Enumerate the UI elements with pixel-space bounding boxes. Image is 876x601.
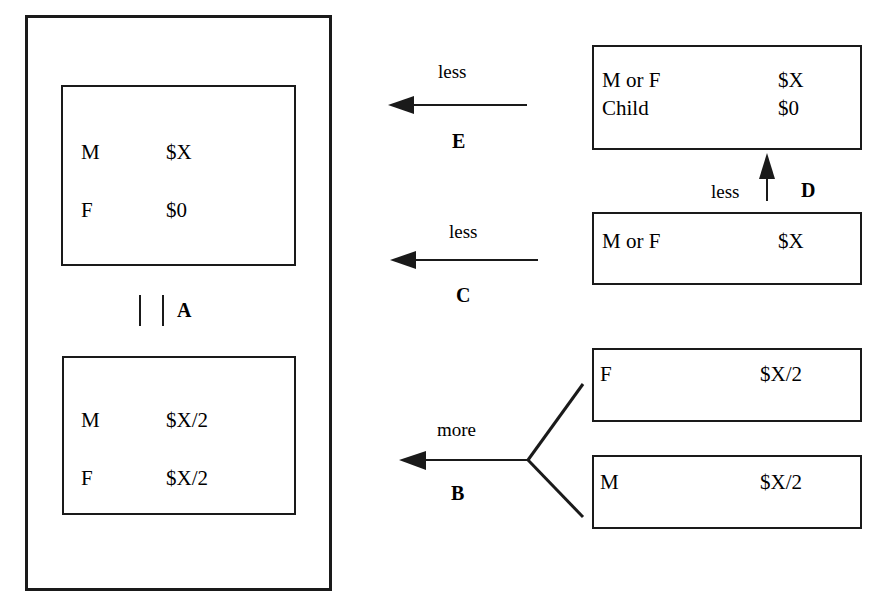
arrow-e-glyph: [388, 96, 527, 114]
external-box-e-row-1-value: $0: [778, 96, 799, 121]
arrow-d-qualifier: less: [711, 182, 740, 201]
external-box-b-upper-label: F: [600, 362, 612, 387]
state-box-bottom: [62, 356, 296, 515]
external-box-e-row-0-value: $X: [778, 68, 804, 93]
arrow-d-tag: D: [801, 180, 815, 200]
internal-link-tag-a: A: [177, 300, 191, 320]
external-box-b-upper: [592, 348, 862, 422]
state-bottom-row-1-value: $X/2: [166, 468, 208, 489]
arrow-e-tag: E: [452, 131, 465, 151]
state-top-row-0-value: $X: [166, 142, 192, 163]
external-box-c-row-0-value: $X: [778, 229, 804, 254]
external-box-e-row-1-label: Child: [602, 96, 649, 121]
state-box-top: [61, 85, 296, 266]
arrow-b-qualifier: more: [437, 420, 476, 439]
arrow-e-qualifier: less: [438, 62, 467, 81]
diagram-canvas: M $X F $0 A M $X/2 F $X/2 M or F $X Chil…: [0, 0, 876, 601]
arrow-d-glyph: [759, 153, 775, 201]
state-top-row-1-value: $0: [166, 200, 187, 221]
external-box-c-row-0-label: M or F: [602, 229, 660, 254]
parallel-bar-right: [162, 295, 164, 326]
arrow-b-tag: B: [451, 483, 464, 503]
external-box-b-lower-label: M: [600, 470, 619, 495]
external-box-b-upper-value: $X/2: [760, 362, 802, 387]
state-top-row-1-label: F: [81, 200, 93, 221]
state-bottom-row-0-value: $X/2: [166, 410, 208, 431]
state-bottom-row-0-label: M: [81, 410, 100, 431]
state-bottom-row-1-label: F: [81, 468, 93, 489]
state-top-row-0-label: M: [81, 142, 100, 163]
external-box-b-lower: [592, 455, 862, 529]
external-box-e-row-0-label: M or F: [602, 68, 660, 93]
arrow-c-tag: C: [456, 285, 470, 305]
parallel-bar-left: [139, 295, 141, 326]
external-box-b-lower-value: $X/2: [760, 470, 802, 495]
arrow-c-qualifier: less: [449, 222, 478, 241]
arrow-c-glyph: [390, 251, 538, 269]
arrow-b-glyph: [399, 384, 583, 517]
